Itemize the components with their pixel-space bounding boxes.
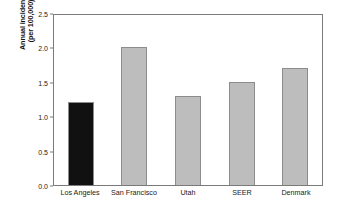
bar-slot <box>108 15 162 185</box>
bar-utah[interactable] <box>175 96 201 185</box>
bar-los-angeles[interactable] <box>68 102 94 185</box>
bar-slot <box>54 15 108 185</box>
y-axis-tick-label: 0.5 <box>38 148 48 155</box>
bar-series <box>54 15 322 185</box>
y-axis-tick-label: 2.5 <box>38 11 48 18</box>
y-axis-tick-label: 2.0 <box>38 45 48 52</box>
y-axis-tick-label: 1.5 <box>38 79 48 86</box>
plot-area <box>53 14 323 186</box>
bar-slot <box>215 15 269 185</box>
bar-slot <box>268 15 322 185</box>
y-axis-tick-label: 0.0 <box>38 183 48 190</box>
x-axis-category-label: San Francisco <box>107 188 161 202</box>
bar-san-francisco[interactable] <box>121 47 147 185</box>
bar-seer[interactable] <box>229 82 255 185</box>
bar-slot <box>161 15 215 185</box>
x-axis-category-labels: Los AngelesSan FranciscoUtahSEERDenmark <box>53 188 323 202</box>
bar-denmark[interactable] <box>282 68 308 185</box>
x-axis-category-label: Los Angeles <box>53 188 107 202</box>
bar-chart-figure: Annual incidence (per 100,000) 0.00.51.0… <box>0 0 344 207</box>
x-axis-category-label: SEER <box>215 188 269 202</box>
x-axis-category-label: Denmark <box>269 188 323 202</box>
y-axis-tick-label: 1.0 <box>38 114 48 121</box>
x-axis-category-label: Utah <box>161 188 215 202</box>
y-axis-tick-labels: 0.00.51.01.52.02.5 <box>30 0 48 207</box>
